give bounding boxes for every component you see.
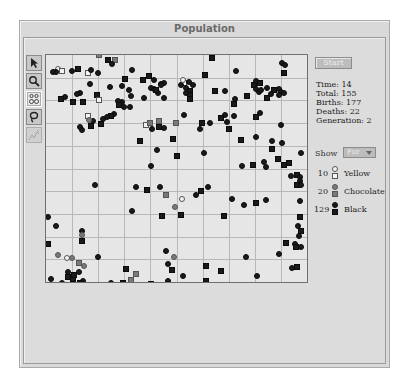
- black-male-agent[interactable]: [212, 88, 218, 94]
- black-female-agent[interactable]: [282, 62, 288, 68]
- black-male-agent[interactable]: [144, 187, 150, 193]
- black-male-agent[interactable]: [120, 280, 126, 283]
- black-female-agent[interactable]: [289, 265, 295, 271]
- choc-female-agent[interactable]: [81, 263, 87, 269]
- black-male-agent[interactable]: [281, 70, 287, 76]
- start-button[interactable]: Start: [315, 57, 352, 69]
- black-female-agent[interactable]: [254, 273, 260, 279]
- black-female-agent[interactable]: [127, 104, 133, 110]
- choc-male-agent[interactable]: [96, 54, 102, 58]
- black-female-agent[interactable]: [53, 223, 59, 229]
- black-female-agent[interactable]: [95, 254, 101, 260]
- black-female-agent[interactable]: [298, 244, 304, 250]
- black-male-agent[interactable]: [148, 281, 154, 283]
- black-female-agent[interactable]: [253, 134, 259, 140]
- black-male-agent[interactable]: [221, 213, 227, 219]
- black-female-agent[interactable]: [129, 67, 135, 73]
- black-male-agent[interactable]: [250, 162, 256, 168]
- choc-female-agent[interactable]: [55, 252, 61, 258]
- black-female-agent[interactable]: [264, 85, 270, 91]
- black-female-agent[interactable]: [231, 113, 237, 119]
- black-male-agent[interactable]: [238, 137, 244, 143]
- black-female-agent[interactable]: [197, 126, 203, 132]
- black-female-agent[interactable]: [48, 276, 54, 282]
- black-female-agent[interactable]: [95, 70, 101, 76]
- black-female-agent[interactable]: [180, 273, 186, 279]
- black-female-agent[interactable]: [165, 261, 171, 267]
- black-male-agent[interactable]: [58, 96, 64, 102]
- black-female-agent[interactable]: [279, 140, 285, 146]
- black-female-agent[interactable]: [190, 82, 196, 88]
- black-female-agent[interactable]: [163, 248, 169, 254]
- black-male-agent[interactable]: [226, 126, 232, 132]
- black-female-agent[interactable]: [201, 150, 207, 156]
- black-female-agent[interactable]: [297, 198, 303, 204]
- black-female-agent[interactable]: [119, 83, 125, 89]
- black-female-agent[interactable]: [148, 163, 154, 169]
- choc-male-agent[interactable]: [133, 271, 139, 277]
- black-male-agent[interactable]: [153, 87, 159, 93]
- choc-male-agent[interactable]: [128, 277, 134, 283]
- black-male-agent[interactable]: [286, 160, 292, 166]
- black-male-agent[interactable]: [253, 200, 259, 206]
- black-female-agent[interactable]: [278, 122, 284, 128]
- black-female-agent[interactable]: [107, 84, 113, 90]
- choc-female-agent[interactable]: [69, 255, 75, 261]
- black-male-agent[interactable]: [264, 95, 270, 101]
- black-male-agent[interactable]: [198, 188, 204, 194]
- choc-female-agent[interactable]: [79, 232, 85, 238]
- yellow-female-agent[interactable]: [180, 77, 186, 83]
- black-female-agent[interactable]: [50, 69, 56, 75]
- yellow-male-agent[interactable]: [59, 68, 65, 74]
- black-female-agent[interactable]: [161, 95, 167, 101]
- group-tool[interactable]: [26, 91, 42, 107]
- black-female-agent[interactable]: [161, 125, 167, 131]
- black-male-agent[interactable]: [169, 267, 175, 273]
- black-female-agent[interactable]: [276, 251, 282, 257]
- black-female-agent[interactable]: [222, 88, 228, 94]
- black-female-agent[interactable]: [79, 127, 85, 133]
- black-female-agent[interactable]: [128, 93, 134, 99]
- black-female-agent[interactable]: [296, 233, 302, 239]
- black-female-agent[interactable]: [59, 280, 65, 283]
- yellow-female-agent[interactable]: [179, 196, 185, 202]
- black-male-agent[interactable]: [159, 213, 165, 219]
- choc-male-agent[interactable]: [163, 192, 169, 198]
- black-male-agent[interactable]: [137, 138, 143, 144]
- black-female-agent[interactable]: [207, 120, 213, 126]
- black-female-agent[interactable]: [298, 150, 304, 156]
- black-female-agent[interactable]: [224, 119, 230, 125]
- black-female-agent[interactable]: [141, 95, 147, 101]
- black-female-agent[interactable]: [154, 147, 160, 153]
- black-male-agent[interactable]: [174, 153, 180, 159]
- black-male-agent[interactable]: [269, 146, 275, 152]
- lasso-tool[interactable]: [26, 109, 42, 125]
- black-male-agent[interactable]: [122, 76, 128, 82]
- choc-female-agent[interactable]: [171, 254, 177, 260]
- black-female-agent[interactable]: [45, 214, 51, 220]
- black-male-agent[interactable]: [70, 99, 76, 105]
- black-female-agent[interactable]: [298, 182, 304, 188]
- black-male-agent[interactable]: [123, 266, 129, 272]
- black-male-agent[interactable]: [79, 238, 85, 244]
- black-male-agent[interactable]: [218, 268, 224, 274]
- black-female-agent[interactable]: [229, 196, 235, 202]
- black-female-agent[interactable]: [205, 184, 211, 190]
- black-male-agent[interactable]: [257, 80, 263, 86]
- black-female-agent[interactable]: [149, 126, 155, 132]
- black-female-agent[interactable]: [263, 197, 269, 203]
- black-female-agent[interactable]: [108, 280, 114, 283]
- black-female-agent[interactable]: [69, 68, 75, 74]
- black-female-agent[interactable]: [133, 184, 139, 190]
- black-female-agent[interactable]: [151, 77, 157, 83]
- black-male-agent[interactable]: [231, 101, 237, 107]
- black-male-agent[interactable]: [187, 96, 193, 102]
- black-male-agent[interactable]: [202, 72, 208, 78]
- black-male-agent[interactable]: [178, 212, 184, 218]
- black-female-agent[interactable]: [263, 164, 269, 170]
- black-male-agent[interactable]: [244, 93, 250, 99]
- black-male-agent[interactable]: [80, 99, 86, 105]
- black-female-agent[interactable]: [243, 254, 249, 260]
- black-male-agent[interactable]: [170, 136, 176, 142]
- black-female-agent[interactable]: [109, 61, 115, 67]
